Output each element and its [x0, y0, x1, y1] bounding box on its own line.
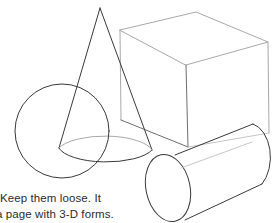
cone-edge-right [100, 8, 152, 150]
caption-line-1: Keep them loose. It [0, 190, 273, 206]
figure-page: Keep them loose. It a page with 3-D form… [0, 0, 273, 223]
cone-edge-left [59, 8, 100, 148]
caption-block: Keep them loose. It a page with 3-D form… [0, 190, 273, 222]
cube-top-face [120, 12, 268, 65]
sphere-outline [15, 84, 109, 178]
cylinder-side-top [175, 124, 253, 155]
cube-edge-front-center [186, 65, 188, 147]
cube-edge-front-left [120, 30, 121, 120]
shape-sphere [15, 84, 109, 178]
cube-edge-far-right [268, 42, 269, 133]
caption-line-2: a page with 3-D forms. [0, 206, 273, 222]
cube-edge-bottom-left [121, 120, 188, 147]
cone-base-front-arc [59, 148, 152, 162]
